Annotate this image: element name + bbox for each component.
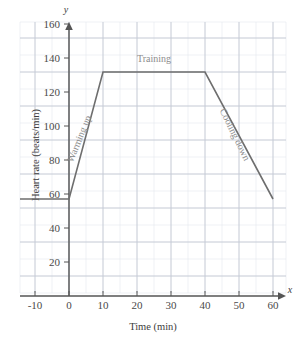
x-axis-name: x: [287, 284, 293, 295]
y-tick-label: 120: [44, 86, 61, 98]
x-tick-label: 40: [200, 299, 212, 311]
heart-rate-chart: -10 0 10 20 30 40 50 60 20 40 60 80 100 …: [0, 0, 295, 343]
annotation-training: Training: [137, 53, 171, 64]
x-tick-label: -10: [28, 299, 43, 311]
x-tick-label: 10: [98, 299, 110, 311]
x-tick-label: 60: [268, 299, 280, 311]
x-axis-title: Time (min): [129, 321, 177, 333]
x-tick-label: 30: [166, 299, 178, 311]
y-axis-name: y: [63, 4, 69, 15]
x-tick-label: 50: [234, 299, 246, 311]
y-axis-title: Heart rate (beats/min): [30, 108, 42, 201]
y-tick-label: 20: [49, 256, 61, 268]
y-tick-label: 80: [49, 154, 61, 166]
y-tick-label: 100: [44, 120, 61, 132]
y-tick-label: 140: [44, 52, 61, 64]
y-tick-label: 40: [49, 222, 61, 234]
x-tick-label: 0: [66, 299, 72, 311]
chart-svg: -10 0 10 20 30 40 50 60 20 40 60 80 100 …: [0, 0, 295, 343]
x-tick-label: 20: [132, 299, 144, 311]
y-tick-label: 160: [44, 18, 61, 30]
